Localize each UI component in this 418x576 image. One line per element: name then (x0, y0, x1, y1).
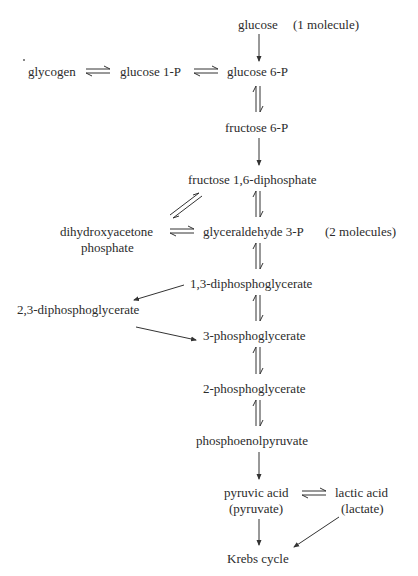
node-glucose-1p: glucose 1-P (120, 64, 181, 79)
node-lactate: (lactate) (341, 501, 384, 516)
node-3-phosphoglycerate: 3-phosphoglycerate (203, 328, 306, 343)
reversible-arrow-glycogen-g1p (86, 66, 110, 76)
arrow-bpg23-to-pg3 (136, 327, 196, 340)
reversible-arrow-g6p-f6p (253, 86, 263, 112)
node-lactic-acid: lactic acid (335, 485, 388, 500)
node-glyceraldehyde-3p: glyceraldehyde 3-P (203, 224, 304, 239)
node-phosphoenolpyruvate: phosphoenolpyruvate (196, 433, 308, 448)
reversible-arrow-pg3-pg2 (253, 347, 263, 374)
arrow-bpg13-to-bpg23 (134, 285, 184, 300)
node-13-diphosphoglycerate: 1,3-diphosphoglycerate (190, 276, 312, 291)
reversible-arrow-f16dp-g3p (253, 191, 263, 217)
note-glucose-count: (1 molecule) (293, 17, 359, 32)
node-fructose-6p: fructose 6-P (225, 120, 288, 135)
note-g3p-count: (2 molecules) (325, 224, 396, 239)
node-pyruvic-acid: pyruvic acid (224, 485, 289, 500)
node-glycogen: glycogen (28, 64, 76, 79)
node-krebs-cycle: Krebs cycle (227, 551, 289, 566)
node-dihydroxyacetone: dihydroxyacetone (60, 224, 153, 239)
node-23-diphosphoglycerate: 2,3-diphosphoglycerate (17, 302, 139, 317)
reversible-arrow-g3p-bpg13 (253, 243, 263, 269)
reversible-arrow-f16dp-dhap (170, 193, 202, 218)
arrow-lactate-to-krebs (294, 517, 339, 547)
reversible-arrow-dhap-g3p (170, 226, 194, 236)
node-fructose-16-diphosphate: fructose 1,6-diphosphate (188, 172, 317, 187)
reversible-arrow-g1p-g6p (194, 66, 218, 76)
node-pyruvate: (pyruvate) (229, 501, 283, 516)
reversible-arrow-pg2-pep (253, 400, 263, 426)
node-glucose-6p: glucose 6-P (227, 64, 288, 79)
reversible-arrow-pyruvate-lactate (302, 488, 326, 498)
node-2-phosphoglycerate: 2-phosphoglycerate (203, 381, 306, 396)
node-glucose: glucose (238, 17, 278, 32)
node-dhap-phosphate: phosphate (81, 240, 134, 255)
reversible-arrow-bpg13-pg3 (253, 295, 263, 321)
